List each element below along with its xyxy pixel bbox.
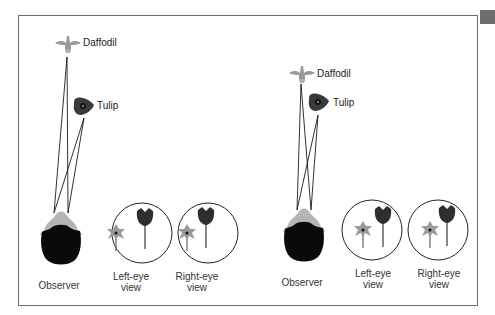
sight-lines: [54, 57, 84, 213]
caption-line: view: [343, 279, 403, 290]
right-eye-view-circle: [408, 200, 468, 260]
left-eye-view-caption: Left-eye view: [101, 271, 161, 293]
caption-line: view: [167, 282, 227, 293]
caption-line: Right-eye: [167, 271, 227, 282]
view-tulip-icon: [375, 206, 391, 247]
right-eye-view-caption: Right-eye view: [409, 268, 469, 290]
view-daffodil-icon: [107, 224, 125, 251]
view-tulip-icon: [439, 205, 455, 246]
caption-line: Left-eye: [101, 271, 161, 282]
daffodil-label: Daffodil: [317, 68, 351, 79]
daffodil-icon: [289, 66, 315, 83]
caption-line: Right-eye: [409, 268, 469, 279]
tulip-label: Tulip: [97, 100, 118, 111]
daffodil-icon: [55, 36, 81, 53]
panel-far: [283, 66, 468, 262]
observer-head-icon: [40, 212, 82, 265]
view-daffodil-icon: [178, 224, 196, 251]
observer-label: Observer: [272, 277, 332, 288]
daffodil-label: Daffodil: [83, 37, 117, 48]
tulip-icon: [309, 94, 329, 111]
caption-line: view: [101, 282, 161, 293]
view-daffodil-icon: [421, 221, 439, 248]
caption-line: Left-eye: [343, 268, 403, 279]
tulip-icon: [74, 98, 94, 115]
left-eye-view-circle: [342, 200, 402, 260]
view-tulip-icon: [198, 207, 214, 248]
panel-near: [40, 36, 238, 265]
observer-head-icon: [283, 209, 325, 262]
right-eye-view-caption: Right-eye view: [167, 271, 227, 293]
left-eye-view-caption: Left-eye view: [343, 268, 403, 290]
caption-line: view: [409, 279, 469, 290]
view-tulip-icon: [137, 208, 153, 249]
tulip-label: Tulip: [333, 97, 354, 108]
observer-label: Observer: [29, 280, 89, 291]
view-daffodil-icon: [354, 221, 372, 248]
